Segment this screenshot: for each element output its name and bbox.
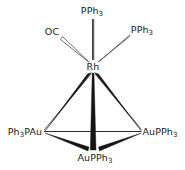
label-rhodium-text: Rh xyxy=(87,61,100,72)
label-phosphine-top-text: PPh xyxy=(81,5,99,16)
label-gold-left-suffix: PAu xyxy=(24,126,42,137)
label-gold-right-subscript: 3 xyxy=(173,131,178,139)
bond-rh-phosphine-right-hollow-wedge xyxy=(97,35,131,64)
bond-rh-au-right-solid-wedge xyxy=(95,73,142,132)
label-gold-right: AuPPh3 xyxy=(141,127,178,137)
label-gold-bottom-subscript: 3 xyxy=(108,157,113,165)
bond-network xyxy=(0,0,185,170)
label-phosphine-right-subscript: 3 xyxy=(149,29,154,37)
label-gold-left-text: Ph xyxy=(8,126,20,137)
label-gold-left: Ph3PAu xyxy=(7,127,43,137)
label-phosphine-right-text: PPh xyxy=(131,24,149,35)
label-gold-bottom: AuPPh3 xyxy=(76,153,113,163)
bond-au-right-au-bottom-solid-wedge xyxy=(99,133,142,151)
label-gold-left-subscript: 3 xyxy=(20,131,25,139)
label-gold-bottom-text: AuPPh xyxy=(77,152,108,163)
label-phosphine-right: PPh3 xyxy=(130,25,154,35)
chemical-structure-figure: OC PPh3 PPh3 Rh Ph3PAu AuPPh3 AuPPh3 xyxy=(0,0,185,170)
label-carbonyl-text: OC xyxy=(45,26,59,37)
bond-rh-au-left-solid-wedge xyxy=(45,73,92,132)
label-phosphine-top-subscript: 3 xyxy=(99,10,104,18)
label-carbonyl: OC xyxy=(44,27,60,37)
bond-rh-carbonyl-hollow-wedge xyxy=(61,37,91,64)
bond-au-left-au-bottom-solid-wedge xyxy=(45,133,89,151)
label-phosphine-top: PPh3 xyxy=(80,6,104,16)
label-rhodium: Rh xyxy=(86,62,101,72)
label-gold-right-text: AuPPh xyxy=(142,126,173,137)
bond-rh-au-bottom-solid-wedge xyxy=(90,73,96,150)
